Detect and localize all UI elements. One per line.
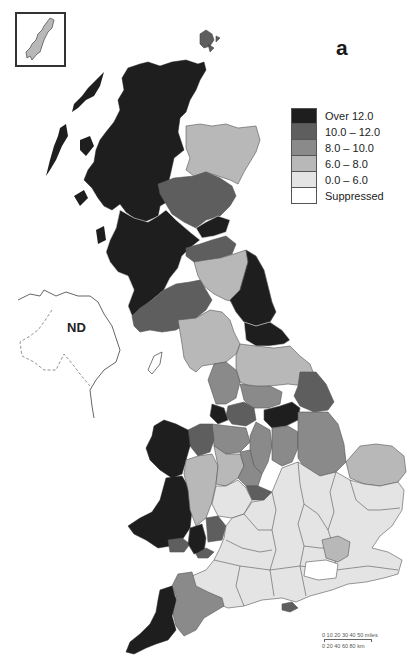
cornwall <box>126 586 176 654</box>
legend-item: Over 12.0 <box>291 108 384 124</box>
northern-ireland-outline <box>18 290 120 418</box>
legend: Over 12.0 10.0 – 12.0 8.0 – 10.0 6.0 – 8… <box>291 108 384 204</box>
legend-item: 0.0 – 6.0 <box>291 172 384 188</box>
scale-line <box>324 639 372 642</box>
legend-item: 10.0 – 12.0 <box>291 124 384 140</box>
humberside <box>294 372 334 412</box>
legend-swatch <box>291 172 317 188</box>
legend-label: Over 12.0 <box>325 110 373 122</box>
durham-cleveland <box>244 322 290 346</box>
legend-item: 6.0 – 8.0 <box>291 156 384 172</box>
legend-item: 8.0 – 10.0 <box>291 140 384 156</box>
scale-miles-label: 0 10 20 30 40 50 miles <box>322 632 378 638</box>
scale-bar: 0 10 20 30 40 50 miles 0 20 40 60 80 km <box>322 632 378 649</box>
lancashire <box>208 362 240 404</box>
orkney <box>200 30 220 52</box>
clwyd <box>188 424 214 456</box>
legend-swatch <box>291 140 317 156</box>
northern-ireland-no-data-label: ND <box>67 320 86 335</box>
legend-label: 0.0 – 6.0 <box>325 174 368 186</box>
legend-label: 10.0 – 12.0 <box>325 126 380 138</box>
cumbria <box>178 310 240 372</box>
legend-swatch <box>291 124 317 140</box>
legend-swatch <box>291 108 317 124</box>
shetland-inset-frame <box>15 12 66 67</box>
surrey <box>304 560 338 580</box>
legend-swatch <box>291 156 317 172</box>
norfolk <box>346 444 406 486</box>
nottinghamshire <box>272 426 298 466</box>
legend-item: Suppressed <box>291 188 384 204</box>
legend-label: 8.0 – 10.0 <box>325 142 374 154</box>
choropleth-map <box>0 0 420 666</box>
legend-swatch <box>291 188 317 204</box>
gwent <box>206 516 226 542</box>
isle-of-man <box>148 352 162 374</box>
west-glamorgan <box>168 538 190 552</box>
dyfed <box>128 476 192 548</box>
isle-of-wight <box>282 602 298 612</box>
scale-km-label: 0 20 40 60 80 km <box>322 643 378 649</box>
legend-label: 6.0 – 8.0 <box>325 158 368 170</box>
merseyside <box>210 404 228 424</box>
legend-label: Suppressed <box>325 190 384 202</box>
panel-label: a <box>336 36 348 60</box>
gwynedd <box>146 420 190 478</box>
